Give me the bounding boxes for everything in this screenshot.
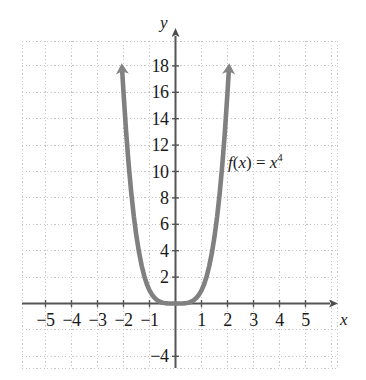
y-tick-label: 6 xyxy=(138,215,169,233)
x-tick-label: −5 xyxy=(32,311,60,329)
x-tick-label: −3 xyxy=(84,311,112,329)
x-tick-label: −4 xyxy=(58,311,86,329)
x-tick-label: 5 xyxy=(292,311,320,329)
x-axis-label: x xyxy=(340,311,348,328)
y-tick-label: 2 xyxy=(138,268,169,286)
x-tick-label: 4 xyxy=(266,311,294,329)
y-tick-label: 8 xyxy=(138,189,169,207)
x-tick-label: 2 xyxy=(214,311,242,329)
y-tick-label: 16 xyxy=(138,83,169,101)
x-tick-label: −2 xyxy=(110,311,138,329)
function-annotation: f(x) = x4 xyxy=(228,152,283,171)
y-tick-label: 12 xyxy=(138,136,169,154)
y-tick-label: 18 xyxy=(138,57,169,75)
y-tick-label: 4 xyxy=(138,242,169,260)
y-tick-label: 14 xyxy=(138,110,169,128)
fn-equals: = xyxy=(252,153,270,172)
function-graph-figure: y x f(x) = x4 −5−4−3−2−112345−4246810121… xyxy=(0,0,366,380)
x-tick-label: 3 xyxy=(240,311,268,329)
x-tick-label: 1 xyxy=(188,311,216,329)
y-axis-label: y xyxy=(160,14,168,31)
y-tick-label: 10 xyxy=(138,163,169,181)
fn-arg: x xyxy=(238,153,246,172)
fn-exponent: 4 xyxy=(277,151,283,163)
x-tick-label: −1 xyxy=(136,311,164,329)
curve-right-branch xyxy=(176,71,229,303)
y-tick-label: −4 xyxy=(138,347,169,365)
